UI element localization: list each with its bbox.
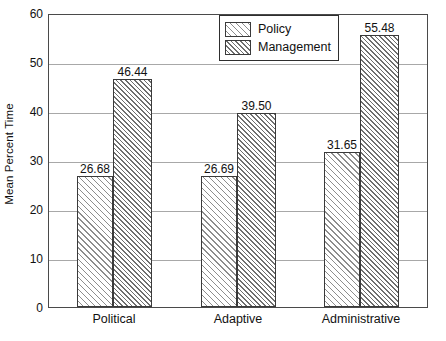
bar-management-adaptive[interactable]: 39.50 xyxy=(237,113,276,307)
legend-item-policy[interactable]: Policy xyxy=(225,20,331,38)
y-tick-label: 40 xyxy=(18,106,48,118)
bar-value-label: 55.48 xyxy=(363,22,395,35)
y-tick-label: 20 xyxy=(18,204,48,216)
y-axis-tick-labels: 60 50 40 30 20 10 0 xyxy=(18,0,48,341)
bar-policy-adaptive[interactable]: 26.69 xyxy=(201,176,237,307)
bar-policy-political[interactable]: 26.68 xyxy=(77,176,113,307)
y-tick-label: 30 xyxy=(18,155,48,167)
legend-swatch-cross-hatch-icon xyxy=(225,40,251,55)
bar-value-label: 46.44 xyxy=(116,66,148,79)
x-axis-tick-labels: Political Adaptive Administrative xyxy=(48,312,428,336)
y-axis-title: Mean Percent Time xyxy=(0,0,18,308)
bar-value-label: 39.50 xyxy=(240,100,272,113)
bar-value-label: 31.65 xyxy=(326,139,358,152)
legend-item-management[interactable]: Management xyxy=(225,38,331,56)
legend-label: Management xyxy=(258,40,331,54)
bar-chart: Mean Percent Time 60 50 40 30 20 10 0 26… xyxy=(0,0,446,341)
bar-value-label: 26.69 xyxy=(203,163,235,176)
legend-label: Policy xyxy=(258,22,291,36)
y-tick-label: 50 xyxy=(18,57,48,69)
x-tick-label-administrative: Administrative xyxy=(322,312,401,327)
y-axis-title-text: Mean Percent Time xyxy=(3,103,15,204)
bar-value-label: 26.68 xyxy=(79,163,111,176)
bar-management-political[interactable]: 46.44 xyxy=(113,79,152,307)
legend: Policy Management xyxy=(219,15,339,61)
x-tick-label-political: Political xyxy=(92,312,135,327)
bar-management-administrative[interactable]: 55.48 xyxy=(360,35,399,307)
x-tick-label-adaptive: Adaptive xyxy=(214,312,263,327)
y-tick-label: 10 xyxy=(18,253,48,265)
bar-policy-administrative[interactable]: 31.65 xyxy=(324,152,360,307)
y-tick-label: 60 xyxy=(18,8,48,20)
legend-swatch-diagonal-hatch-icon xyxy=(225,22,251,37)
y-tick-label: 0 xyxy=(18,302,48,314)
